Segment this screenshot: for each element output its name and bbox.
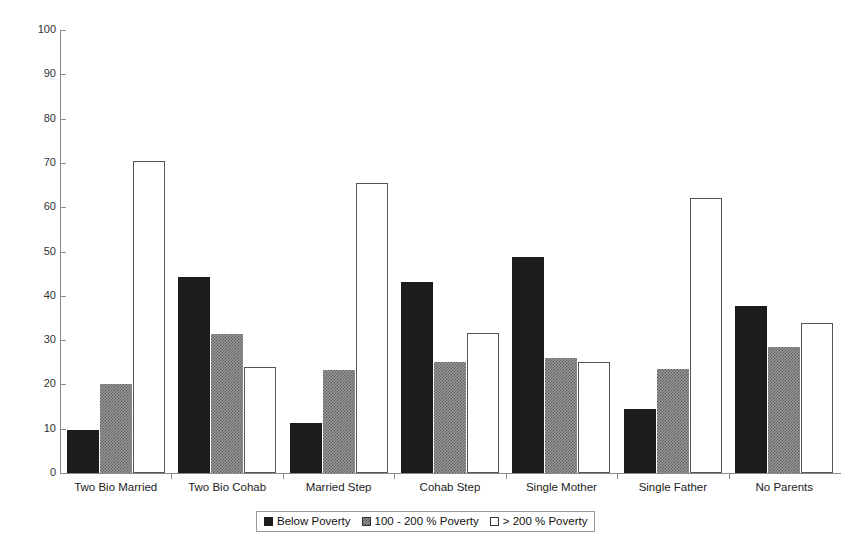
- plot-area: [60, 30, 840, 473]
- y-axis-tick-label: 50: [0, 246, 56, 257]
- bar-group: [735, 30, 833, 473]
- chart-legend: Below Poverty100 - 200 % Poverty> 200 % …: [256, 511, 595, 532]
- y-axis-tick-label: 80: [0, 113, 56, 124]
- bar-chart: 0102030405060708090100 Two Bio MarriedTw…: [0, 0, 857, 556]
- x-axis-tick-mark: [171, 473, 172, 479]
- x-axis-line: [60, 473, 841, 474]
- legend-label: 100 - 200 % Poverty: [375, 515, 479, 528]
- x-axis-tick-mark: [394, 473, 395, 479]
- white-outline-swatch: [490, 517, 499, 526]
- legend-item: Below Poverty: [264, 515, 351, 528]
- bar: [133, 161, 165, 473]
- bar-group: [290, 30, 388, 473]
- bar: [467, 333, 499, 473]
- x-axis-tick-mark: [617, 473, 618, 479]
- bar: [545, 358, 577, 473]
- bar: [290, 423, 322, 473]
- bar: [434, 362, 466, 473]
- y-axis-tick-label: 90: [0, 68, 56, 79]
- x-axis-category-label: Cohab Step: [394, 481, 505, 494]
- legend-label: > 200 % Poverty: [503, 515, 588, 528]
- bar: [768, 347, 800, 473]
- y-axis-tick-label: 100: [0, 24, 56, 35]
- x-axis-category-label: No Parents: [729, 481, 840, 494]
- checkered-gray-swatch: [362, 517, 371, 526]
- y-axis-tick-label: 60: [0, 201, 56, 212]
- x-axis-tick-mark: [729, 473, 730, 479]
- legend-item: > 200 % Poverty: [490, 515, 588, 528]
- bar: [401, 282, 433, 473]
- x-axis-category-label: Two Bio Cohab: [171, 481, 282, 494]
- y-axis-tick-label: 70: [0, 157, 56, 168]
- bar-group: [67, 30, 165, 473]
- bar-group: [401, 30, 499, 473]
- legend-item: 100 - 200 % Poverty: [362, 515, 479, 528]
- legend-label: Below Poverty: [277, 515, 351, 528]
- bar: [624, 409, 656, 473]
- bar: [512, 257, 544, 473]
- bar: [657, 369, 689, 473]
- y-axis-tick-label: 0: [0, 467, 56, 478]
- bar: [323, 370, 355, 473]
- y-axis-tick-label: 30: [0, 334, 56, 345]
- y-axis-tick-mark: [60, 473, 66, 474]
- y-axis-tick-label: 20: [0, 378, 56, 389]
- bar: [178, 277, 210, 473]
- bar-group: [512, 30, 610, 473]
- x-axis-tick-mark: [506, 473, 507, 479]
- bar: [801, 323, 833, 473]
- y-axis-tick-label: 40: [0, 290, 56, 301]
- y-axis-tick-label: 10: [0, 423, 56, 434]
- bar: [67, 430, 99, 473]
- x-axis-category-label: Single Mother: [506, 481, 617, 494]
- bar: [100, 384, 132, 473]
- x-axis-category-label: Two Bio Married: [60, 481, 171, 494]
- bar: [690, 198, 722, 473]
- bar: [211, 334, 243, 473]
- bar-group: [178, 30, 276, 473]
- x-axis-category-label: Single Father: [617, 481, 728, 494]
- x-axis-category-label: Married Step: [283, 481, 394, 494]
- solid-black-swatch: [264, 517, 273, 526]
- bar: [735, 306, 767, 473]
- bar: [356, 183, 388, 473]
- bar-group: [624, 30, 722, 473]
- x-axis-tick-mark: [283, 473, 284, 479]
- bar: [578, 362, 610, 473]
- bar: [244, 367, 276, 473]
